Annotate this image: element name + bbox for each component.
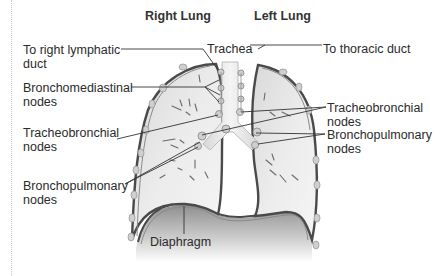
label-line: nodes: [327, 142, 432, 156]
label-line: duct: [23, 57, 120, 71]
label-line: Tracheobronchial: [23, 126, 119, 140]
label-diaphragm: Diaphragm: [150, 235, 211, 249]
label-to-thoracic-duct: To thoracic duct: [323, 42, 411, 56]
label-bronchomediastinal-nodes: Bronchomediastinal nodes: [23, 81, 133, 109]
left-lung-heading: Left Lung: [254, 9, 311, 23]
right-lung-heading: Right Lung: [145, 9, 211, 23]
label-line: nodes: [23, 140, 119, 154]
label-line: nodes: [23, 193, 128, 207]
label-line: Bronchomediastinal: [23, 81, 133, 95]
label-tracheobronchial-nodes-left: Tracheobronchial nodes: [23, 126, 119, 154]
label-bronchopulmonary-nodes-right: Bronchopulmonary nodes: [327, 128, 432, 156]
label-line: Bronchopulmonary: [23, 179, 128, 193]
label-to-right-lymphatic-duct: To right lymphatic duct: [23, 43, 120, 71]
label-line: To right lymphatic: [23, 43, 120, 57]
label-line: nodes: [23, 95, 133, 109]
label-trachea: Trachea: [207, 42, 252, 56]
label-tracheobronchial-nodes-right: Tracheobronchial nodes: [327, 101, 423, 129]
label-line: Bronchopulmonary: [327, 128, 432, 142]
label-line: Tracheobronchial: [327, 101, 423, 115]
label-bronchopulmonary-nodes-left: Bronchopulmonary nodes: [23, 179, 128, 207]
label-line: nodes: [327, 115, 423, 129]
